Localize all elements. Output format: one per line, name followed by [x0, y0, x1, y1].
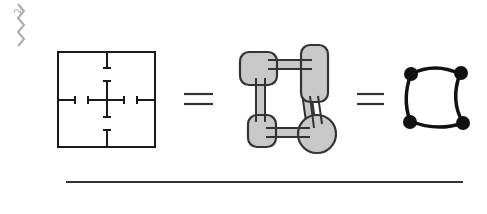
- equals-sign-2: [357, 94, 384, 104]
- node-top-right: [454, 66, 468, 80]
- superscript-label: 2: [13, 8, 23, 14]
- blob-bottom-left: [248, 115, 276, 147]
- node-cycle: [403, 66, 470, 130]
- blob-top-right: [301, 45, 328, 102]
- diagram-figure: 2: [0, 0, 487, 214]
- blob-bottom-right: [298, 115, 336, 153]
- node-top-left: [404, 67, 418, 81]
- equals-sign-1: [184, 94, 213, 104]
- node-bottom-left: [403, 115, 417, 129]
- blob-chain: [240, 45, 336, 153]
- zigzag-squiggle-icon: 2: [13, 4, 24, 46]
- node-bottom-right: [456, 116, 470, 130]
- grid-square: [58, 52, 155, 147]
